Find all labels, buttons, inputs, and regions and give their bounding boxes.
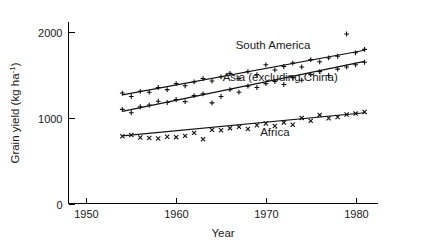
data-point-plus [344,32,349,37]
y-axis-title-close-paren: ) [9,62,21,66]
x-tick-labels: 1950196019701980 [74,208,368,220]
y-tick-labels: 010002000 [38,27,62,211]
y-tick-marks [69,33,75,205]
y-tick-label-2000: 2000 [38,27,62,39]
data-point-cross [210,128,214,132]
data-point-plus [156,99,161,104]
x-tick-marks [87,198,357,204]
data-point-plus [210,101,215,106]
data-point-cross [246,127,250,131]
trend-line-2 [122,113,364,136]
data-point-cross [291,123,295,127]
series-labels-group: South AmericaAsia (excluding China)Afric… [223,39,338,138]
y-tick-label-0: 0 [56,199,62,211]
y-tick-label-1000: 1000 [38,113,62,125]
data-point-plus [317,59,322,64]
y-axis: 010002000 [38,22,74,211]
x-tick-label-1950: 1950 [74,208,98,220]
data-point-plus [129,94,134,99]
data-point-cross [219,128,223,132]
trend-lines-group [122,50,364,136]
x-axis: 1950196019701980 [69,198,379,220]
data-point-plus [299,65,304,70]
x-tick-label-1960: 1960 [164,208,188,220]
data-point-plus [129,110,134,115]
series-label-0: South America [236,39,311,51]
series-label-1: Asia (excluding China) [223,71,338,83]
data-point-plus [219,94,224,99]
grain-yield-scatter-chart: 010002000 1950196019701980 South America… [0,0,429,244]
data-point-cross [228,126,232,130]
data-point-plus [263,62,268,67]
y-axis-title: Grain yield (kg ha-1) [8,62,21,163]
x-tick-label-1970: 1970 [254,208,278,220]
data-point-cross [174,135,178,139]
data-point-plus [165,87,170,92]
data-point-cross [192,131,196,135]
data-point-cross [138,135,142,139]
data-point-cross [165,135,169,139]
data-point-cross [156,136,160,140]
y-axis-title-text: Grain yield (kg ha [9,73,21,164]
data-point-cross [147,136,151,140]
x-tick-label-1980: 1980 [344,208,368,220]
series-label-2: Africa [260,126,290,138]
data-point-cross [183,134,187,138]
data-point-plus [254,85,259,90]
chart-figure: 010002000 1950196019701980 South America… [0,0,429,244]
data-point-cross [309,119,313,123]
x-axis-title: Year [211,227,234,239]
data-point-plus [183,99,188,104]
data-point-plus [237,90,242,95]
data-point-plus [210,79,215,84]
series-points-2 [120,110,366,142]
svg-text:Grain yield (kg ha-1): Grain yield (kg ha-1) [8,62,21,163]
data-point-cross [201,137,205,141]
